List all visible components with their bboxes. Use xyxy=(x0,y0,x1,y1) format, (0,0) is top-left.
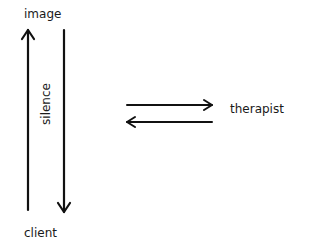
node-label-client: client xyxy=(24,226,57,240)
node-label-image: image xyxy=(24,7,61,21)
arrow-to-therapist xyxy=(127,100,212,110)
arrow-from-therapist xyxy=(127,117,212,127)
arrow-client-to-image xyxy=(22,30,34,210)
arrow-image-to-client xyxy=(58,30,70,212)
node-label-therapist: therapist xyxy=(230,102,284,116)
edge-label-silence: silence xyxy=(39,80,53,128)
